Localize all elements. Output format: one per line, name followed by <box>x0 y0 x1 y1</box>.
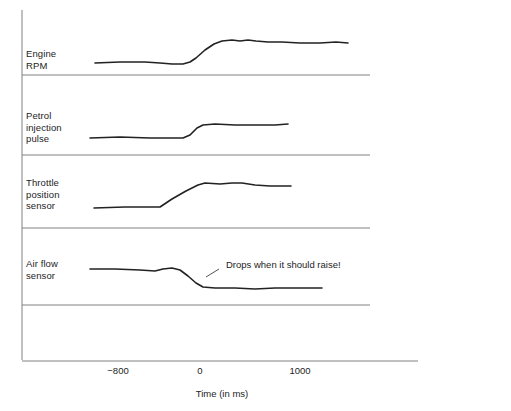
channel-label-engine-rpm: Engine RPM <box>26 48 56 71</box>
annotation-leader-line <box>206 269 219 277</box>
trace-throttle-position-sensor <box>94 183 291 208</box>
x-tick-label-1000: 1000 <box>289 365 310 376</box>
engine-diagnostic-chart: Engine RPM Petrol injection pulse Thrott… <box>0 0 511 411</box>
x-tick-label-0: 0 <box>197 365 202 376</box>
chart-canvas <box>0 0 511 411</box>
channel-label-throttle-position-sensor: Throttle position sensor <box>26 177 60 212</box>
x-axis-title: Time (in ms) <box>196 388 248 399</box>
x-tick-label-minus-800: −800 <box>107 365 128 376</box>
trace-engine-rpm <box>95 40 348 64</box>
signal-traces <box>90 40 348 289</box>
channel-separators <box>22 75 370 305</box>
channel-label-air-flow-sensor: Air flow sensor <box>26 258 58 281</box>
trace-petrol-injection-pulse <box>90 124 288 138</box>
channel-label-petrol-injection-pulse: Petrol injection pulse <box>26 110 62 145</box>
trace-air-flow-sensor <box>90 268 322 289</box>
annotation-drops-when-it-should-raise: Drops when it should raise! <box>226 259 341 270</box>
